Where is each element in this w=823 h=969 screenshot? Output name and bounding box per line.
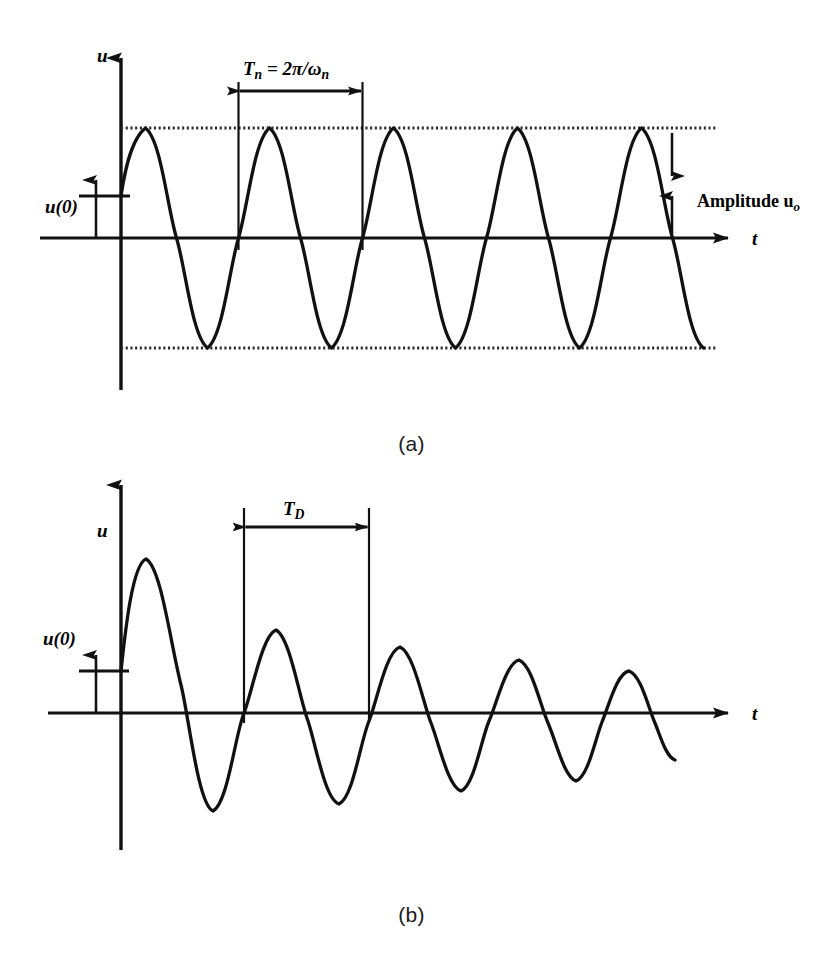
period-label-b: TD	[283, 498, 304, 523]
caption-panel-a: (a)	[0, 432, 823, 456]
amplitude-label-a: Amplitude uo	[697, 191, 800, 215]
initial-value-label-a: u(0)	[45, 196, 78, 218]
period-label-T-a: T	[243, 58, 255, 79]
u-axis-label-a: u	[97, 45, 108, 67]
figure-root: u t Tn = 2π/ωn Amplitude uo u(0) (a)	[0, 0, 823, 969]
u-axis-label-b: u	[97, 520, 108, 542]
period-label-a: Tn = 2π/ωn	[243, 58, 329, 83]
period-label-rhs-subscript-a: n	[321, 67, 329, 82]
panel-b-plot	[0, 455, 823, 895]
t-axis-label-b: t	[752, 703, 757, 725]
period-label-T-b: T	[283, 498, 295, 519]
period-label-T-subscript-b: D	[295, 507, 305, 522]
caption-panel-b: (b)	[0, 903, 823, 927]
period-label-rhs-a: = 2π/ω	[262, 58, 321, 79]
waveform-damped-b	[121, 559, 675, 811]
amplitude-label-subscript-a: o	[794, 199, 800, 214]
amplitude-label-text-a: Amplitude u	[697, 191, 794, 211]
panel-a-plot	[0, 0, 823, 430]
t-axis-label-a: t	[752, 228, 757, 250]
initial-value-label-b: u(0)	[43, 628, 76, 650]
